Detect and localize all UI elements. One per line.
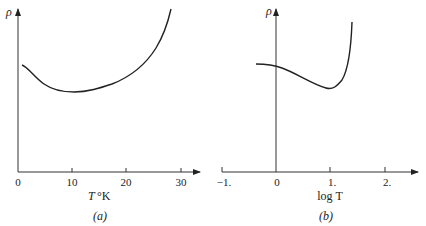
figure-canvas: 0 10 20 30 ρ T °K (a) −1. 0 1. 2. ρ log …	[0, 0, 426, 226]
x-axis-label-b: log T	[317, 189, 343, 203]
y-axis-label-a: ρ	[5, 5, 12, 19]
curve-a	[22, 9, 171, 92]
tick-label-b-2: 2.	[383, 176, 392, 188]
tick-label-a-10: 10	[67, 176, 79, 188]
panel-b: −1. 0 1. 2. ρ log T (b)	[217, 4, 418, 223]
tick-label-a-0: 0	[15, 176, 21, 188]
x-axis-unit-a: °K	[97, 189, 111, 203]
caption-a: (a)	[93, 209, 107, 223]
tick-label-a-30: 30	[176, 176, 188, 188]
caption-b: (b)	[319, 209, 333, 223]
curve-b	[256, 22, 352, 89]
tick-label-b-0: 0	[274, 176, 280, 188]
y-axis-label-b: ρ	[265, 4, 272, 18]
tick-label-b-neg1: −1.	[217, 176, 232, 188]
panel-a: 0 10 20 30 ρ T °K (a)	[5, 5, 200, 223]
tick-label-a-20: 20	[121, 176, 133, 188]
x-axis-var-a: T	[88, 189, 96, 203]
tick-label-b-1: 1.	[328, 176, 337, 188]
